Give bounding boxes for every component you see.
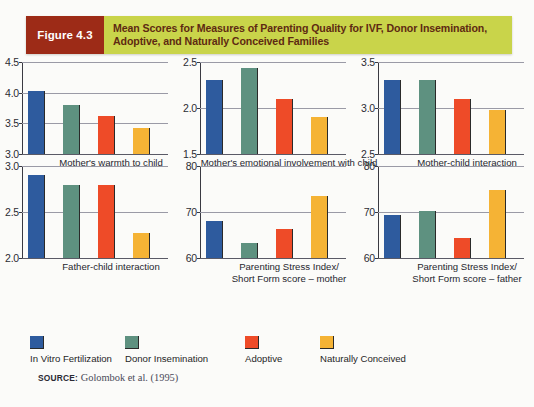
legend-label: In Vitro Fertilization bbox=[30, 353, 112, 364]
chart-panel-4: 607080Parenting Stress Index/Short Form … bbox=[178, 166, 356, 258]
y-axis-tick-label: 2.5 bbox=[361, 148, 378, 160]
y-axis-tick-label: 2.5 bbox=[5, 206, 22, 218]
x-axis-label: Parenting Stress Index/Short Form score … bbox=[378, 261, 534, 284]
bar-slot bbox=[206, 166, 241, 258]
bar bbox=[28, 91, 45, 154]
gridline bbox=[200, 154, 346, 155]
y-axis-tick-label: 80 bbox=[186, 160, 200, 172]
legend-label: Adoptive bbox=[245, 353, 282, 364]
chart-panel-2: 2.53.03.5Mother-child interaction bbox=[356, 62, 534, 154]
bar-slot bbox=[98, 62, 133, 154]
bar-slot bbox=[28, 166, 63, 258]
bar-slot bbox=[206, 62, 241, 154]
plot-area: 607080Parenting Stress Index/Short Form … bbox=[200, 166, 346, 258]
y-axis-tick-label: 3.0 bbox=[361, 102, 378, 114]
gridline bbox=[22, 154, 168, 155]
plot-area: 1.52.02.5Mother's emotional involvement … bbox=[200, 62, 346, 154]
bar bbox=[28, 175, 45, 258]
chart-grid: 3.03.54.04.5Mother's warmth to child 1.5… bbox=[0, 62, 534, 258]
bar bbox=[489, 110, 506, 154]
bar bbox=[419, 211, 436, 258]
bar-slot bbox=[311, 166, 346, 258]
source-citation: Golombok et al. (1995) bbox=[81, 372, 179, 383]
y-axis-tick-label: 2.5 bbox=[183, 56, 200, 68]
bar-slot bbox=[454, 166, 489, 258]
legend-swatch bbox=[125, 336, 139, 349]
legend-item: Donor Insemination bbox=[125, 336, 208, 364]
bar bbox=[384, 215, 401, 258]
legend-label: Naturally Conceived bbox=[320, 353, 406, 364]
legend-swatch bbox=[245, 336, 259, 349]
chart-panel-3: 2.02.53.0Father-child interaction bbox=[0, 166, 178, 258]
gridline bbox=[22, 258, 168, 259]
bar bbox=[489, 190, 506, 258]
bar bbox=[133, 128, 150, 154]
bar bbox=[98, 116, 115, 154]
bar-slot bbox=[98, 166, 133, 258]
y-axis-tick-label: 1.5 bbox=[183, 148, 200, 160]
legend-swatch bbox=[320, 336, 334, 349]
bars-container bbox=[23, 62, 168, 154]
bar bbox=[98, 185, 115, 258]
source-line: SOURCE: Golombok et al. (1995) bbox=[38, 372, 178, 383]
plot-area: 607080Parenting Stress Index/Short Form … bbox=[378, 166, 524, 258]
figure-banner: Figure 4.3 Mean Scores for Measures of P… bbox=[26, 16, 512, 54]
y-axis-tick-label: 70 bbox=[364, 206, 378, 218]
bar-slot bbox=[454, 62, 489, 154]
y-axis-tick-label: 4.0 bbox=[5, 87, 22, 99]
legend-swatch bbox=[30, 336, 44, 349]
bar bbox=[419, 80, 436, 154]
bar bbox=[311, 196, 328, 258]
bar-slot bbox=[384, 62, 419, 154]
legend-label: Donor Insemination bbox=[125, 353, 208, 364]
bar-slot bbox=[28, 62, 63, 154]
bar-slot bbox=[241, 62, 276, 154]
bar-slot bbox=[63, 166, 98, 258]
legend-item: Adoptive bbox=[245, 336, 282, 364]
y-axis-tick-label: 3.0 bbox=[5, 160, 22, 172]
y-axis-tick-label: 3.0 bbox=[5, 148, 22, 160]
bar-slot bbox=[311, 62, 346, 154]
chart-panel-0: 3.03.54.04.5Mother's warmth to child bbox=[0, 62, 178, 154]
bar-slot bbox=[276, 166, 311, 258]
bar bbox=[454, 238, 471, 258]
y-axis-tick-label: 70 bbox=[186, 206, 200, 218]
bar bbox=[241, 68, 258, 154]
y-axis-tick-label: 4.5 bbox=[5, 56, 22, 68]
bars-container bbox=[201, 166, 346, 258]
plot-area: 2.53.03.5Mother-child interaction bbox=[378, 62, 524, 154]
bar bbox=[276, 229, 293, 258]
gridline bbox=[200, 258, 346, 259]
y-axis-tick-label: 3.5 bbox=[5, 117, 22, 129]
chart-panel-1: 1.52.02.5Mother's emotional involvement … bbox=[178, 62, 356, 154]
bar bbox=[206, 221, 223, 258]
bars-container bbox=[201, 62, 346, 154]
bar-slot bbox=[489, 166, 524, 258]
plot-area: 2.02.53.0Father-child interaction bbox=[22, 166, 168, 258]
bar bbox=[311, 117, 328, 154]
bar-slot bbox=[133, 166, 168, 258]
chart-panel-5: 607080Parenting Stress Index/Short Form … bbox=[356, 166, 534, 258]
bar-slot bbox=[276, 62, 311, 154]
plot-area: 3.03.54.04.5Mother's warmth to child bbox=[22, 62, 168, 154]
bar-slot bbox=[489, 62, 524, 154]
source-label: SOURCE: bbox=[38, 373, 78, 383]
y-axis-tick-label: 3.5 bbox=[361, 56, 378, 68]
bar-slot bbox=[241, 166, 276, 258]
gridline bbox=[378, 258, 524, 259]
bars-container bbox=[379, 166, 524, 258]
chart-row-bottom: 2.02.53.0Father-child interaction 607080… bbox=[0, 166, 534, 258]
bar bbox=[63, 105, 80, 154]
bar bbox=[63, 185, 80, 258]
bar bbox=[241, 243, 258, 258]
bar bbox=[454, 99, 471, 154]
y-axis-tick-label: 60 bbox=[186, 252, 200, 264]
legend-item: Naturally Conceived bbox=[320, 336, 406, 364]
figure-title: Mean Scores for Measures of Parenting Qu… bbox=[113, 22, 504, 48]
y-axis-tick-label: 60 bbox=[364, 252, 378, 264]
bar-slot bbox=[63, 62, 98, 154]
bar bbox=[384, 80, 401, 154]
figure-number-tag: Figure 4.3 bbox=[26, 16, 104, 54]
x-axis-label: Father-child interaction bbox=[22, 261, 200, 273]
bar-slot bbox=[419, 166, 454, 258]
